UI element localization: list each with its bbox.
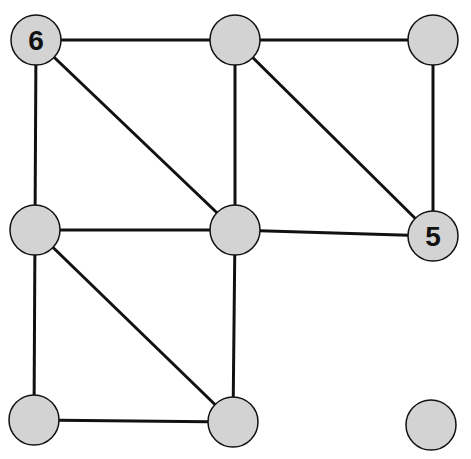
node-circle	[208, 397, 258, 447]
node-n6: 5	[408, 211, 458, 261]
node-circle	[406, 400, 456, 450]
node-label: 6	[28, 25, 44, 56]
node-n3	[408, 15, 458, 65]
node-circle	[408, 15, 458, 65]
node-n9	[406, 400, 456, 450]
edge-n4-n7	[34, 230, 35, 420]
node-n8	[208, 397, 258, 447]
edge-n2-n6	[235, 40, 433, 236]
node-n2	[210, 15, 260, 65]
node-circle	[210, 205, 260, 255]
edge-n1-n5	[36, 40, 235, 230]
edge-n1-n4	[35, 40, 36, 230]
edge-n7-n8	[34, 420, 233, 422]
edge-n5-n8	[233, 230, 235, 422]
node-n1: 6	[11, 15, 61, 65]
node-n4	[10, 205, 60, 255]
node-label: 5	[425, 221, 441, 252]
node-circle	[210, 15, 260, 65]
node-circle	[10, 205, 60, 255]
node-n5	[210, 205, 260, 255]
edge-n4-n8	[35, 230, 233, 422]
edge-n5-n6	[235, 230, 433, 236]
node-circle	[9, 395, 59, 445]
graph-diagram: 65	[0, 0, 471, 459]
node-n7	[9, 395, 59, 445]
